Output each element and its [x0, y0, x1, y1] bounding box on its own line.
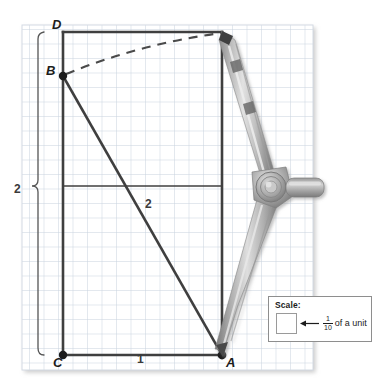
- figure-canvas: D B C A 2 1 2 Scale: 1 10 of a unit: [0, 0, 380, 389]
- point-label-A: A: [226, 355, 235, 370]
- point-label-D: D: [52, 17, 61, 32]
- compass-knob: [286, 178, 324, 197]
- scale-legend-title: Scale:: [275, 300, 301, 310]
- scale-swatch: [276, 313, 297, 334]
- dot-B: [59, 72, 67, 80]
- label-height-length: 2: [14, 182, 21, 196]
- scale-legend: Scale: 1 10 of a unit: [268, 296, 372, 342]
- scale-legend-text: 1 10 of a unit: [323, 315, 367, 331]
- point-label-C: C: [53, 355, 62, 370]
- scale-fraction: 1 10: [323, 315, 333, 331]
- label-base-length: 1: [137, 352, 144, 366]
- scale-numerator: 1: [325, 315, 331, 322]
- scale-suffix: of a unit: [335, 318, 367, 328]
- point-label-B: B: [46, 63, 55, 78]
- label-diagonal-length: 2: [145, 197, 152, 211]
- left-arrow-icon: [300, 319, 320, 328]
- scale-denominator: 10: [323, 324, 333, 331]
